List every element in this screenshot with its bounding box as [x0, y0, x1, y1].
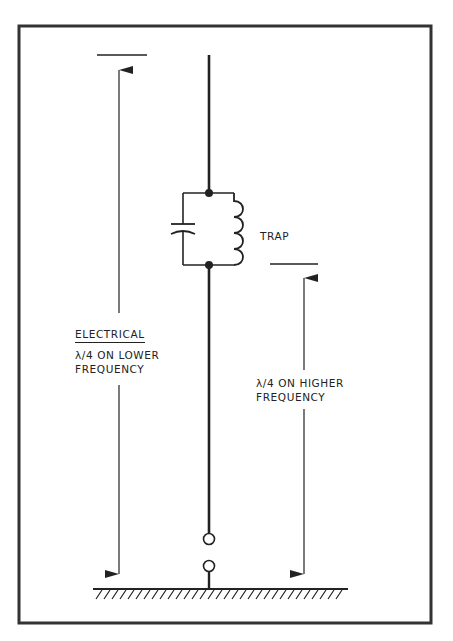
left-dimension-label-line1: ELECTRICAL	[75, 327, 145, 343]
left-dimension-label-line3: FREQUENCY	[75, 363, 144, 375]
trap-circuit	[171, 193, 243, 265]
inductor-coil	[234, 193, 243, 265]
right-dimension-label-line1: λ/4 ON HIGHER	[256, 377, 344, 389]
right-dimension-label-line2: FREQUENCY	[256, 391, 325, 403]
trap-label: TRAP	[260, 229, 289, 243]
ground-plane	[93, 589, 348, 599]
right-dimension-label: λ/4 ON HIGHER FREQUENCY	[256, 376, 344, 404]
left-dimension-label-line2: λ/4 ON LOWER	[75, 348, 159, 362]
figure-frame	[19, 26, 431, 623]
trap-antenna-diagram	[0, 0, 453, 641]
feed-terminal-upper	[204, 534, 215, 545]
feed-terminal-lower	[204, 561, 215, 572]
left-dimension-label: ELECTRICAL λ/4 ON LOWER FREQUENCY	[75, 327, 159, 376]
